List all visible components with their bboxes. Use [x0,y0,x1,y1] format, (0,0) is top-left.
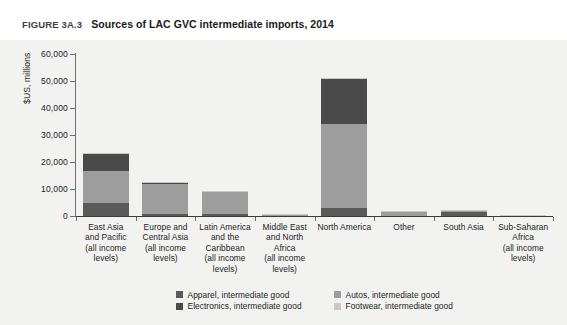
bar-segment [321,124,367,208]
bar-3[interactable] [262,54,308,216]
y-axis-tick-labels: 010,00020,00030,00040,00050,00060,000 [20,0,68,325]
bar-2[interactable] [202,54,248,216]
y-axis-tick [70,216,76,217]
y-axis-tick [70,162,76,163]
x-axis-label-line: (all income [72,243,140,253]
bar-7[interactable] [500,54,546,216]
x-axis-category-label: Middle Eastand NorthAfrica(all incomelev… [251,222,319,274]
y-axis-tick [70,135,76,136]
bar-0[interactable] [83,54,129,216]
x-axis-category-label: North America [311,222,379,232]
x-axis-label-line: Caribbean [191,243,259,253]
chart-legend: Apparel, intermediate good Autos, interm… [176,289,453,312]
bar-segment [202,214,248,216]
bar-segment [262,214,308,215]
bar-segment [262,215,308,216]
legend-label-apparel: Apparel, intermediate good [188,290,290,300]
bar-segment [381,211,427,212]
legend-swatch-icon-footwear [334,303,341,310]
x-axis-label-line: Latin America [191,222,259,232]
bar-5[interactable] [381,54,427,216]
x-axis-label-line: (all income [132,243,200,253]
x-axis-label-line: and the [191,232,259,242]
bar-segment [142,183,188,214]
bar-4[interactable] [321,54,367,216]
x-axis-category-label: Sub-SaharanAfrica(all incomelevels) [489,222,557,264]
bar-segment [321,79,367,125]
x-axis-label-line: and North [251,232,319,242]
figure-header: FIGURE 3A.3 Sources of LAC GVC intermedi… [22,18,334,30]
bar-1[interactable] [142,54,188,216]
bar-segment [83,171,129,203]
bar-segment [441,212,487,216]
bar-segment [83,154,129,171]
bar-segment [321,208,367,216]
x-axis-tick [195,217,196,221]
y-axis-tick-label: 10,000 [22,184,68,194]
bar-segment [441,211,487,212]
x-axis-tick [76,217,77,221]
y-axis-tick-label: 0 [22,211,68,221]
x-axis-label-line: (all income [191,253,259,263]
x-axis-label-line: Central Asia [132,232,200,242]
x-axis-label-line: Other [370,222,438,232]
y-axis-tick-label: 30,000 [22,130,68,140]
legend-item-footwear[interactable]: Footwear, intermediate good [334,301,453,313]
x-axis-tick [553,217,554,221]
bar-segment [321,78,367,79]
x-axis-tick [255,217,256,221]
bar-6[interactable] [441,54,487,216]
y-axis-tick [70,108,76,109]
y-axis-tick-label: 40,000 [22,103,68,113]
x-axis-tick [493,217,494,221]
x-axis-label-line: levels) [489,253,557,263]
bar-segment [441,210,487,211]
bar-segment [142,214,188,216]
x-axis-category-label: South Asia [430,222,498,232]
y-axis-tick-label: 20,000 [22,157,68,167]
x-axis-tick [374,217,375,221]
x-axis-category-label: Latin Americaand theCaribbean(all income… [191,222,259,274]
x-axis-label-line: levels) [72,253,140,263]
x-axis-category-label: East Asiaand Pacific(all incomelevels) [72,222,140,264]
x-axis-tick [136,217,137,221]
bar-segment [83,203,129,216]
legend-swatch-icon-autos [334,291,341,298]
x-axis-label-line: Middle East [251,222,319,232]
bar-segment [202,192,248,213]
bar-segment [500,215,546,216]
x-axis-label-line: South Asia [430,222,498,232]
bar-segment [142,182,188,183]
x-axis-label-line: Africa [489,232,557,242]
legend-item-autos[interactable]: Autos, intermediate good [334,289,453,301]
x-axis-label-line: Africa [251,243,319,253]
x-axis-category-label: Other [370,222,438,232]
x-axis-label-line: (all income [489,243,557,253]
x-axis-category-label: Europe andCentral Asia(all incomelevels) [132,222,200,264]
legend-label-footwear: Footwear, intermediate good [346,301,454,311]
x-axis-tick [315,217,316,221]
x-axis-label-line: Sub-Saharan [489,222,557,232]
figure-title: Sources of LAC GVC intermediate imports,… [91,18,334,30]
y-axis-tick [70,54,76,55]
x-axis-label-line: Europe and [132,222,200,232]
legend-label-autos: Autos, intermediate good [346,290,440,300]
bar-segment [83,153,129,154]
x-axis-tick [434,217,435,221]
legend-item-electronics[interactable]: Electronics, intermediate good [176,301,322,313]
x-axis-label-line: (all income [251,253,319,263]
x-axis-label-line: and Pacific [72,232,140,242]
legend-swatch-icon-apparel [176,291,183,298]
legend-item-apparel[interactable]: Apparel, intermediate good [176,289,322,301]
x-axis-label-line: levels) [191,264,259,274]
legend-label-electronics: Electronics, intermediate good [188,301,302,311]
x-axis-label-line: levels) [251,264,319,274]
y-axis-tick-label: 50,000 [22,76,68,86]
y-axis-tick-label: 60,000 [22,49,68,59]
legend-swatch-icon-electronics [176,303,183,310]
bar-segment [381,212,427,216]
x-axis-label-line: East Asia [72,222,140,232]
y-axis-tick [70,81,76,82]
y-axis-tick [70,189,76,190]
bar-segment [202,191,248,192]
